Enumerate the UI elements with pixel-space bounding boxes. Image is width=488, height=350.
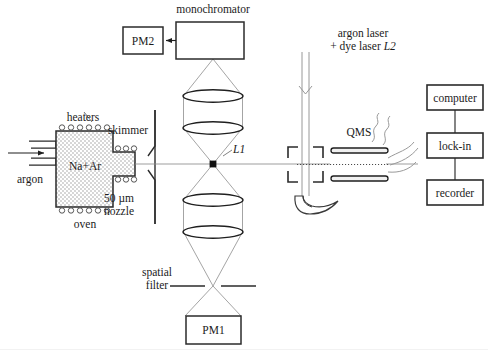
qms-lens-bracket-1a	[288, 147, 298, 158]
figure-canvas: monochromator PM2 PM1 heaters skimmer ar…	[0, 0, 488, 350]
monochromator-box	[176, 22, 244, 59]
qms-detector	[288, 113, 418, 182]
heaters-label: heaters	[67, 111, 100, 124]
laser-label-line2: + dye laser L2	[330, 40, 396, 53]
argon-label: argon	[17, 173, 43, 186]
lockin-label: lock-in	[439, 140, 472, 152]
heater-coils-bottom	[59, 208, 109, 213]
nozzle-size-label: 50 µm	[104, 192, 134, 205]
oven-label: oven	[74, 218, 96, 231]
laser-beam	[295, 52, 338, 214]
chamber-contents-label: Na+Ar	[69, 160, 101, 172]
computer-label: computer	[433, 92, 476, 104]
laser-label-line2-prefix: + dye laser	[330, 40, 383, 52]
skimmer	[148, 110, 155, 224]
l1-leader	[223, 150, 232, 156]
argon-inlet	[8, 141, 56, 165]
beam-dump	[295, 196, 338, 214]
laser-direction-arrow	[299, 86, 312, 94]
pm1-label: PM1	[202, 324, 224, 336]
qms-label: QMS	[347, 126, 372, 139]
laser-label-line1: argon laser	[338, 27, 389, 40]
pm2-label: PM2	[132, 35, 154, 47]
lower-collection-optics	[170, 164, 256, 316]
quadrupole-rod-upper	[331, 148, 388, 153]
focus-point-label: L1	[233, 143, 245, 156]
nozzle-label: nozzle	[104, 205, 134, 218]
recorder-label: recorder	[436, 187, 474, 199]
laser-label-line2-italic: L2	[384, 40, 396, 52]
heater-coils-top	[59, 125, 109, 130]
interaction-point-marker	[210, 161, 217, 168]
lens-upper-1	[183, 90, 243, 102]
qms-lens-bracket-1b	[288, 171, 298, 182]
apparatus-schematic	[0, 0, 488, 350]
qms-lens-bracket-2b	[313, 171, 323, 182]
quadrupole-rod-lower	[331, 176, 388, 181]
monochromator-label: monochromator	[176, 3, 249, 16]
skimmer-label: skimmer	[108, 124, 148, 137]
lens-lower-1	[183, 194, 243, 206]
qms-lens-bracket-2a	[313, 147, 323, 158]
spatial-filter-label-2: filter	[146, 279, 168, 292]
lens-upper-2	[183, 122, 243, 134]
lens-lower-2	[183, 226, 243, 238]
spatial-filter-label-1: spatial	[142, 266, 172, 279]
